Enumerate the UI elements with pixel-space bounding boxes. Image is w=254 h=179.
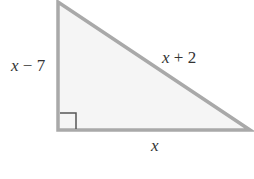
triangle-shape [58,2,250,130]
horizontal-leg-label: x [150,136,159,155]
right-triangle-diagram: x − 7 x + 2 x [0,0,254,179]
vertical-leg-label: x − 7 [10,56,46,75]
hypotenuse-label: x + 2 [161,48,196,67]
